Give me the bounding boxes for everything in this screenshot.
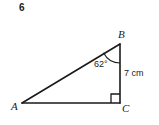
triangle-diagram — [0, 0, 159, 125]
right-angle-marker-c — [111, 94, 120, 103]
vertex-label-c: C — [122, 103, 129, 114]
side-length-label: 7 cm — [124, 68, 144, 78]
figure-container: 6 A B C 62° 7 cm — [0, 0, 159, 125]
vertex-label-b: B — [118, 29, 125, 40]
side-ab-line — [22, 44, 120, 103]
angle-measure-label: 62° — [94, 59, 108, 69]
vertex-label-a: A — [11, 101, 18, 112]
